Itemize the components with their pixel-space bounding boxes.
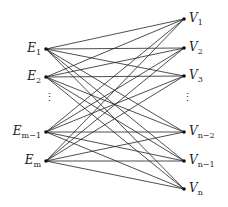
edge <box>46 19 184 132</box>
right-ellipsis: ⋮ <box>182 96 186 100</box>
node-V2 <box>182 46 186 50</box>
node-Vn <box>182 187 186 191</box>
bipartite-graph <box>0 0 228 207</box>
label-V3: V3 <box>189 69 203 86</box>
node-V1 <box>182 17 186 21</box>
edge <box>46 19 184 49</box>
node-Em-1 <box>44 130 48 134</box>
label-Em: Em <box>25 154 41 171</box>
node-E1 <box>44 47 48 51</box>
label-V2: V2 <box>189 41 203 58</box>
node-V3 <box>182 74 186 78</box>
node-Vn-1 <box>182 159 186 163</box>
edge <box>46 161 184 189</box>
node-E2 <box>44 75 48 79</box>
ellipsis-glyph: ⋮ <box>44 91 55 104</box>
edge <box>46 48 184 77</box>
node-Vn-2 <box>182 130 186 134</box>
label-Em-1: Em−1 <box>13 125 41 142</box>
label-Vn-1: Vn−1 <box>189 154 215 171</box>
ellipsis-glyph: ⋮ <box>182 91 193 104</box>
label-V1: V1 <box>189 12 203 29</box>
node-Em <box>44 159 48 163</box>
edge <box>46 77 184 189</box>
label-Vn-2: Vn−2 <box>189 125 215 142</box>
left-ellipsis: ⋮ <box>44 96 48 100</box>
label-Vn: Vn <box>189 182 203 199</box>
label-E2: E2 <box>27 70 41 87</box>
label-E1: E1 <box>27 42 41 59</box>
edge <box>46 132 184 189</box>
edge <box>46 76 184 77</box>
